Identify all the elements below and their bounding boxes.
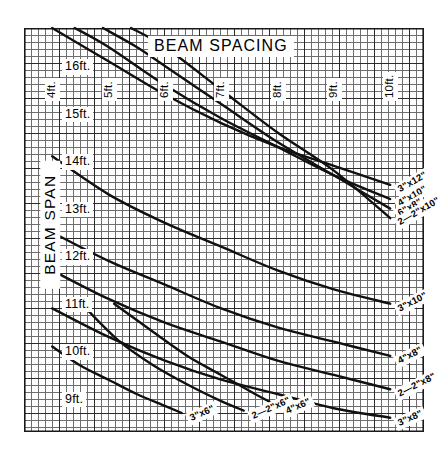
x-axis-tick-7ft: 7ft. — [214, 78, 229, 101]
chart-title: BEAM SPACING — [148, 36, 294, 57]
y-axis-tick-14ft: 14ft. — [62, 154, 93, 170]
y-axis-tick-15ft: 15ft. — [62, 107, 93, 123]
x-axis-tick-9ft: 9ft. — [327, 78, 342, 101]
y-axis-tick-12ft: 12ft. — [62, 249, 93, 265]
y-axis-tick-16ft: 16ft. — [62, 59, 93, 75]
x-axis-tick-10ft: 10ft. — [383, 72, 398, 101]
y-axis-tick-11ft: 11ft. — [62, 297, 92, 313]
y-axis-tick-9ft: 9ft. — [62, 392, 86, 408]
x-axis-tick-6ft: 6ft. — [158, 78, 173, 101]
x-axis-tick-5ft: 5ft. — [102, 78, 117, 101]
y-axis-tick-10ft: 10ft. — [62, 344, 93, 360]
y-axis-title: BEAM SPAN — [40, 161, 60, 289]
y-axis-tick-13ft: 13ft. — [62, 202, 93, 218]
x-axis-tick-8ft: 8ft. — [271, 78, 286, 101]
beam-span-chart: BEAM SPACING BEAM SPAN 4ft.5ft.6ft.7ft.8… — [0, 0, 444, 456]
x-axis-tick-4ft: 4ft. — [45, 78, 60, 101]
